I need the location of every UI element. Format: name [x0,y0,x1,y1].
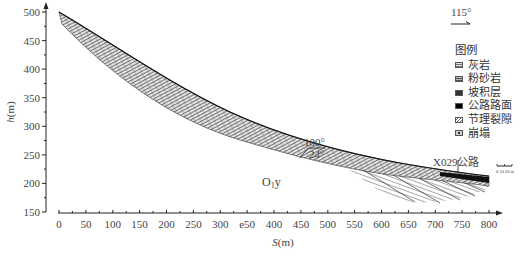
ground-surface-line [59,12,489,176]
x-tick: 300 [212,218,229,230]
x-tick: 800 [481,218,498,230]
joint-swatch-icon [455,117,463,123]
formation-label: O1y [262,175,281,190]
y-tick-400: 400 [24,63,41,75]
legend-item-joint: 节理裂隙 [455,113,512,127]
scale-label: 0 10 20 m [496,169,515,174]
legend-item-colluvium: 坡积层 [455,86,512,100]
rock-stratum-band [59,12,489,186]
dip-angle-label: 24° [309,148,324,160]
x-tick: 0 [56,218,62,230]
x-tick: 600 [373,218,390,230]
colluvium-swatch-icon [455,90,463,96]
y-tick-350: 350 [24,92,41,104]
legend-item-siltstone: 粉砂岩 [455,72,512,86]
y-tick-200: 200 [24,177,41,189]
limestone-swatch-icon [455,62,463,68]
x-tick: e50 [239,218,255,230]
y-tick-500: 500 [24,6,41,18]
scale-bar: 0 10 20 m [496,164,515,174]
y-tick-250: 250 [24,149,41,161]
x-axis-label: S(m) [272,236,294,249]
dip-direction-label: 100° [304,136,325,148]
x-tick: 250 [185,218,202,230]
profile-plot: 500 450 400 350 300 250 200 150 h(m) [0,0,531,256]
y-axis: 500 450 400 350 300 250 200 150 h(m) [4,2,49,218]
legend-item-road: 公路路面 [455,99,512,113]
collapse-swatch-icon [455,130,463,136]
y-axis-label: h(m) [4,101,17,123]
legend-item-collapse: 崩塌 [455,127,512,141]
y-tick-300: 300 [24,120,41,132]
x-tick: 650 [400,218,417,230]
road-swatch-icon [455,103,463,109]
road-label: X029公路 [433,156,479,168]
x-tick: 700 [427,218,444,230]
geological-profile-figure: 500 450 400 350 300 250 200 150 h(m) [0,0,531,256]
orientation-indicator: 115° [451,6,472,24]
orientation-label: 115° [451,6,472,18]
x-tick: 50 [80,218,92,230]
x-tick: 550 [346,218,363,230]
x-tick: 500 [320,218,337,230]
x-tick: 100 [105,218,122,230]
x-tick: 750 [454,218,471,230]
x-tick: 150 [131,218,148,230]
x-tick: 400 [266,218,283,230]
legend-title: 图例 [455,44,512,58]
y-tick-450: 450 [24,35,41,47]
x-tick: 200 [158,218,175,230]
legend: 图例 灰岩 粉砂岩 坡积层 公路路面 节理裂隙 崩塌 [455,44,512,140]
y-tick-150: 150 [24,206,41,218]
siltstone-swatch-icon [455,76,463,82]
x-axis: 0 50 100 150 200 250 300 e50 400 450 500… [56,210,503,249]
x-tick: 450 [293,218,310,230]
legend-item-limestone: 灰岩 [455,59,512,73]
